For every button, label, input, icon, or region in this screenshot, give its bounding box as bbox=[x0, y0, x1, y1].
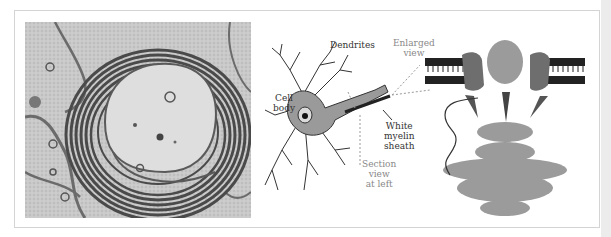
protein-structure bbox=[0, 0, 611, 237]
transmembrane-domain-right bbox=[530, 52, 550, 90]
transmembrane-domain-left bbox=[462, 52, 484, 90]
